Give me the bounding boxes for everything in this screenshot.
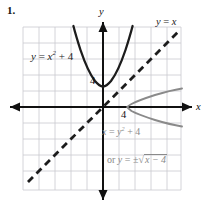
math-figure: 1. <box>0 0 208 209</box>
label-parabola-right-const: 4 <box>135 126 140 137</box>
label-parabola-right-alternate: or y = ±√x − 4 <box>107 154 167 165</box>
label-parabola-right: x = y2 + 4 <box>102 127 140 137</box>
axis-label-y: y <box>99 7 104 18</box>
label-vertex-value-up: 4 <box>90 76 95 87</box>
axis-label-x: x <box>196 102 201 113</box>
label-vertex-value-right: 4 <box>121 110 126 121</box>
label-parabola-up-const: 4 <box>68 50 74 62</box>
label-parabola-up: y = x2 + 4 <box>31 51 73 62</box>
label-alt-radicand: x − 4 <box>144 154 167 165</box>
coordinate-plane <box>0 0 208 209</box>
label-identity-line: y = x <box>156 17 177 28</box>
label-line-rhs: x <box>172 16 177 27</box>
